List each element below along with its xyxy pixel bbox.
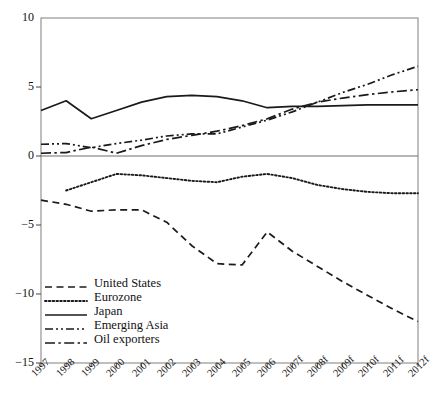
y-axis-tick-label: −10	[0, 286, 34, 301]
legend-line-swatch	[44, 306, 88, 316]
series-line-emerging-asia	[41, 66, 418, 147]
y-axis-tick-label: 5	[0, 79, 34, 94]
legend-line-swatch	[44, 334, 88, 344]
legend-label: United States	[94, 276, 161, 290]
series-line-japan	[41, 95, 418, 118]
legend-item: Emerging Asia	[44, 318, 168, 332]
legend-label: Eurozone	[94, 290, 142, 304]
legend-item: Japan	[44, 304, 168, 318]
y-axis-tick-label: 10	[0, 10, 34, 25]
legend-line-swatch	[44, 320, 88, 330]
legend-item: Oil exporters	[44, 332, 168, 346]
legend-label: Oil exporters	[94, 332, 160, 346]
y-axis-tick-label: −15	[0, 355, 34, 370]
legend-item: United States	[44, 276, 168, 290]
y-axis-tick-label: −5	[0, 217, 34, 232]
legend-label: Emerging Asia	[94, 318, 168, 332]
legend-label: Japan	[94, 304, 122, 318]
legend-item: Eurozone	[44, 290, 168, 304]
legend-line-swatch	[44, 292, 88, 302]
y-axis-tick-label: 0	[0, 148, 34, 163]
legend-line-swatch	[44, 278, 88, 288]
top-crop-mask	[0, 0, 429, 7]
chart-legend: United StatesEurozoneJapanEmerging AsiaO…	[44, 276, 168, 346]
series-line-eurozone	[66, 174, 418, 193]
